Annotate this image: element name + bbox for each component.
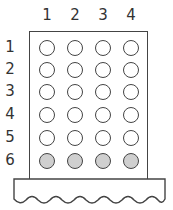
board-base — [0, 0, 173, 210]
